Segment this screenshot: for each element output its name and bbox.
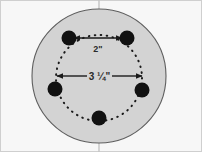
lug-hole-bottom bbox=[92, 111, 107, 126]
lug-hole-left bbox=[48, 82, 63, 97]
bolt-circle-figure: 2" 3 ¼" bbox=[0, 0, 202, 152]
lug-hole-top-right bbox=[120, 31, 135, 46]
bolt-circle-svg: 2" 3 ¼" bbox=[0, 0, 202, 152]
lug-hole-top-left bbox=[62, 31, 77, 46]
bolt-circle-diameter-label: 3 ¼" bbox=[89, 71, 111, 82]
lug-spacing-dimension-label: 2" bbox=[93, 44, 102, 54]
lug-hole-right bbox=[135, 83, 150, 98]
